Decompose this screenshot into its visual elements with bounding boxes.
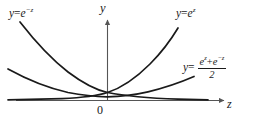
fraction-numerator: ez+e−z [198, 55, 227, 69]
num-second-exponent: −z [217, 54, 224, 61]
label-cosh-eq: = [188, 61, 195, 73]
y-axis-label: y [100, 2, 106, 15]
label-pos-exp-exponent: z [193, 6, 196, 14]
fraction-cosh: ez+e−z 2 [198, 55, 227, 81]
origin-label: 0 [97, 104, 103, 116]
fraction-denominator: 2 [209, 69, 214, 81]
z-axis-label: z [227, 98, 232, 110]
label-negative-exponential: y=e−z [9, 7, 33, 19]
label-positive-exponential: y=ez [176, 7, 196, 19]
curve-hyperbolic-cosine [8, 69, 194, 97]
label-hyperbolic-cosine: y= ez+e−z 2 [183, 55, 226, 81]
curve-negative-exponential [20, 22, 208, 100]
label-neg-exp-exponent: −z [26, 6, 34, 14]
